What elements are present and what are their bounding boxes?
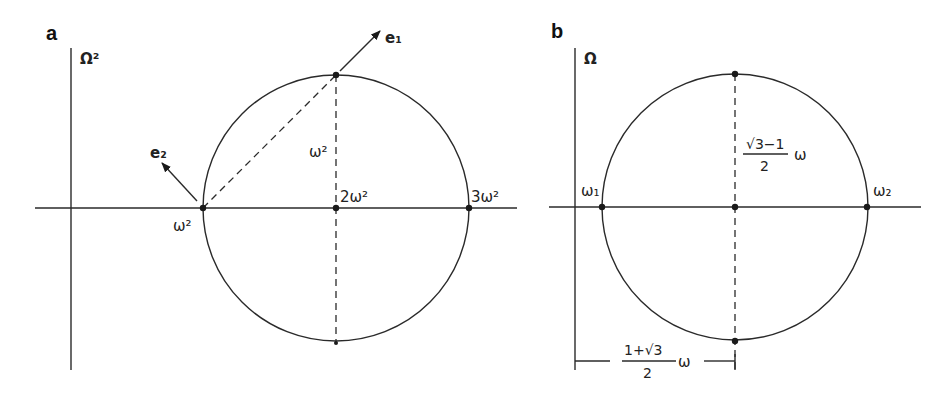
radius-denominator: 2	[760, 158, 769, 174]
panel-a-radius-label: ω²	[309, 143, 328, 161]
panel-a-label: a	[46, 22, 58, 44]
panel-b-left-label: ω₁	[581, 182, 600, 200]
panel-b-point-bottom	[732, 338, 738, 344]
radius-numerator: √3−1	[746, 136, 784, 152]
panel-a-point-top	[333, 72, 339, 78]
panel-b-dimension-line: 1+√3 2 ω	[575, 342, 735, 381]
panel-b-label: b	[551, 20, 563, 42]
panel-b-point-center	[732, 204, 738, 210]
offset-denominator: 2	[643, 365, 652, 381]
panel-a: a Ω² e₁ e₂ ω² 2ω² 3ω² ω²	[35, 22, 517, 370]
panel-b-right-label: ω₂	[873, 182, 892, 200]
panel-a-axis-label: Ω²	[80, 50, 99, 68]
panel-a-right-label: 3ω²	[471, 188, 499, 206]
panel-b-axis-label: Ω	[584, 50, 597, 68]
offset-suffix: ω	[678, 353, 691, 371]
radius-suffix: ω	[794, 146, 807, 164]
offset-numerator: 1+√3	[624, 342, 662, 358]
panel-b-point-left	[599, 204, 605, 210]
panel-b-point-right	[864, 204, 870, 210]
e1-arrow-icon	[340, 31, 380, 71]
mohr-circle-figure: a Ω² e₁ e₂ ω² 2ω² 3ω² ω² b Ω ω₁ ω₂	[0, 0, 948, 398]
e1-vector-label: e₁	[385, 29, 402, 47]
panel-a-point-left	[200, 205, 206, 211]
panel-a-point-center	[333, 205, 339, 211]
e2-arrow-icon	[162, 163, 197, 201]
e2-vector-label: e₂	[150, 144, 167, 162]
panel-b-point-top	[732, 71, 738, 77]
panel-a-center-label: 2ω²	[340, 188, 368, 206]
panel-b: b Ω ω₁ ω₂ √3−1 2 ω 1+√3 2 ω	[549, 20, 921, 381]
panel-a-diagonal-dashed-line	[203, 75, 336, 208]
panel-b-radius-label: √3−1 2 ω	[743, 136, 807, 174]
panel-a-point-bottom	[334, 341, 338, 345]
panel-a-left-label: ω²	[173, 217, 192, 235]
